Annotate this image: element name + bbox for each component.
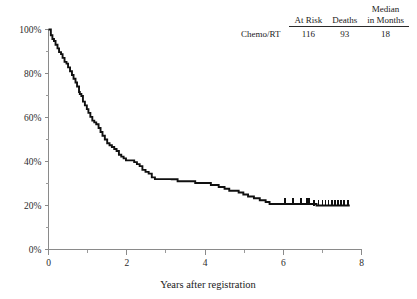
y-tick-label: 60% xyxy=(24,113,42,123)
column-header-at-risk: At Risk xyxy=(289,4,327,27)
survival-plot: 0%20%40%60%80%100%02468 Years after regi… xyxy=(0,0,417,299)
table-row: Chemo/RT 116 93 18 xyxy=(236,27,409,40)
kaplan-meier-figure: 0%20%40%60%80%100%02468 Years after regi… xyxy=(0,0,417,299)
x-tick-label: 4 xyxy=(203,258,208,268)
x-tick-label: 0 xyxy=(46,258,51,268)
tick-labels-group: 0%20%40%60%80%100%02468 xyxy=(19,25,364,268)
y-tick-label: 40% xyxy=(24,157,42,167)
cell-median-months: 18 xyxy=(362,27,409,40)
column-header-deaths: Deaths xyxy=(327,4,362,27)
summary-table-header-row: At Risk Deaths Median in Months xyxy=(236,4,409,27)
axes-group xyxy=(49,29,362,250)
survival-curve-1 xyxy=(49,30,350,206)
ticks-group xyxy=(45,30,362,255)
survival-curve-group xyxy=(49,30,350,206)
y-tick-label: 80% xyxy=(24,69,42,79)
y-tick-label: 20% xyxy=(24,201,42,211)
x-tick-label: 8 xyxy=(359,258,364,268)
x-tick-label: 6 xyxy=(281,258,286,268)
column-header-deaths-line1: Deaths xyxy=(332,15,357,25)
cell-at-risk: 116 xyxy=(289,27,327,40)
summary-table-corner xyxy=(236,4,289,27)
column-header-at-risk-line1: At Risk xyxy=(294,15,322,25)
y-tick-label: 0% xyxy=(29,245,42,255)
cell-deaths: 93 xyxy=(327,27,362,40)
y-tick-label: 100% xyxy=(19,25,41,35)
summary-table-head: At Risk Deaths Median in Months xyxy=(236,4,409,27)
column-header-median-months: Median in Months xyxy=(362,4,409,27)
summary-table-body: Chemo/RT 116 93 18 xyxy=(236,27,409,40)
row-label-chemo-rt: Chemo/RT xyxy=(236,27,289,40)
column-header-median-line1: Median xyxy=(372,4,400,14)
x-axis-title: Years after registration xyxy=(160,279,256,290)
summary-table: At Risk Deaths Median in Months Chemo/RT… xyxy=(236,4,409,40)
column-header-median-line2: in Months xyxy=(367,15,404,25)
x-tick-label: 2 xyxy=(124,258,129,268)
